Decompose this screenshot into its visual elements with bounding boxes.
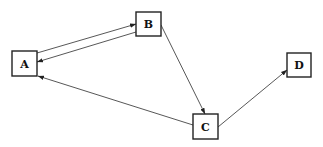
edges-layer (37, 24, 287, 127)
graph-diagram: ABCD (0, 0, 323, 147)
edge-a-to-b (37, 24, 136, 53)
node-label: A (19, 58, 29, 71)
nodes-layer: ABCD (12, 12, 311, 139)
edge-c-to-a (38, 76, 193, 125)
node-b: B (136, 12, 161, 36)
node-a: A (12, 51, 37, 76)
edge-c-to-d (218, 70, 287, 127)
node-label: D (294, 59, 304, 72)
edge-b-to-c (161, 25, 205, 114)
node-d: D (287, 53, 311, 77)
node-label: C (201, 121, 210, 134)
edge-b-to-a (37, 32, 136, 62)
node-c: C (193, 114, 218, 139)
node-label: B (144, 18, 153, 31)
